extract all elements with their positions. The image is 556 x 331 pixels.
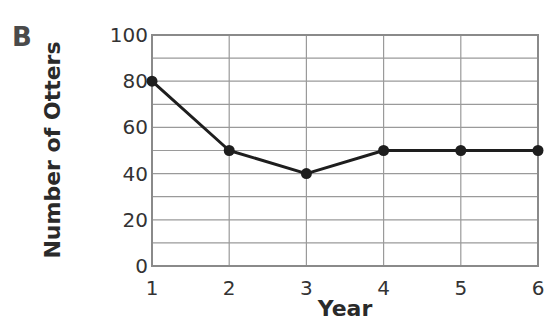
x-tick-label: 5 bbox=[454, 276, 467, 300]
line-chart: 020406080100 123456 bbox=[0, 0, 556, 331]
y-tick-label: 80 bbox=[123, 69, 148, 93]
x-tick-label: 2 bbox=[223, 276, 236, 300]
y-tick-labels: 020406080100 bbox=[110, 23, 148, 278]
y-tick-label: 60 bbox=[123, 115, 148, 139]
y-tick-label: 0 bbox=[135, 254, 148, 278]
data-point bbox=[455, 145, 466, 156]
x-tick-label: 3 bbox=[300, 276, 313, 300]
y-tick-label: 20 bbox=[123, 208, 148, 232]
data-point bbox=[224, 145, 235, 156]
x-tick-labels: 123456 bbox=[146, 276, 545, 300]
y-tick-label: 100 bbox=[110, 23, 148, 47]
y-tick-label: 40 bbox=[123, 162, 148, 186]
x-tick-label: 6 bbox=[532, 276, 545, 300]
data-point bbox=[533, 145, 544, 156]
data-point bbox=[301, 168, 312, 179]
data-point bbox=[147, 76, 158, 87]
data-point bbox=[378, 145, 389, 156]
x-tick-label: 1 bbox=[146, 276, 159, 300]
x-tick-label: 4 bbox=[377, 276, 390, 300]
